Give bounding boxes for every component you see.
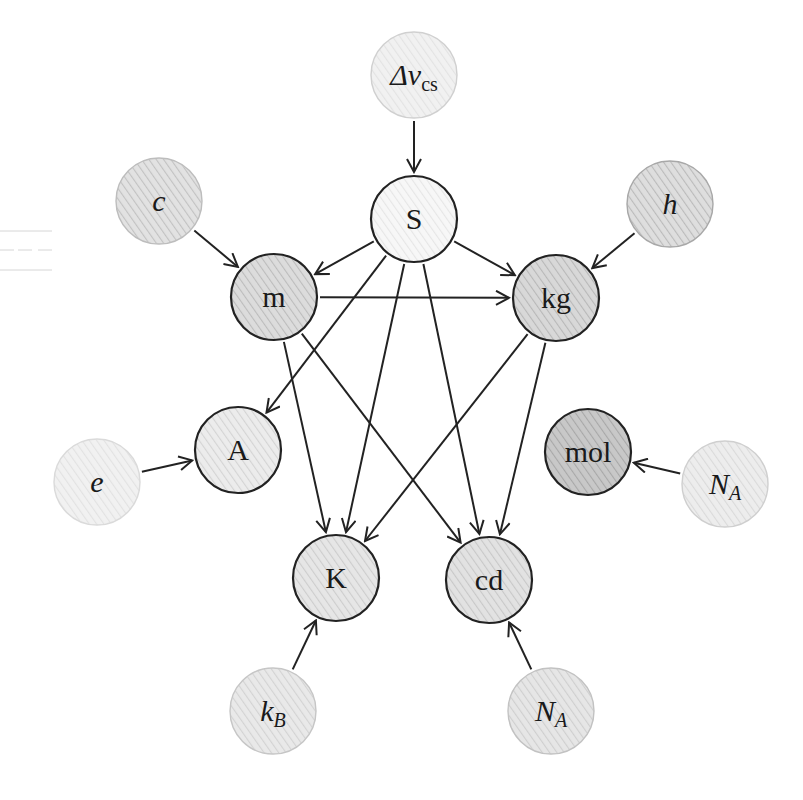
node-label: A bbox=[227, 433, 249, 466]
node-NA_right: NA bbox=[682, 441, 768, 527]
edge-h-to-kg bbox=[592, 233, 634, 268]
dependency-diagram: ΔνcsSchmkgAmoleNAKcdkBNA bbox=[0, 0, 803, 800]
edge-m-to-K bbox=[284, 342, 326, 532]
node-label: kg bbox=[541, 281, 571, 314]
edge-c-to-m bbox=[194, 231, 238, 267]
node-h: h bbox=[627, 161, 713, 247]
node-kB: kB bbox=[230, 668, 316, 754]
node-label: mol bbox=[565, 435, 612, 468]
edge-NA_right-to-mol bbox=[634, 463, 680, 474]
edge-kB-to-K bbox=[293, 621, 316, 670]
node-cd: cd bbox=[446, 537, 532, 623]
node-K: K bbox=[293, 535, 379, 621]
node-label: e bbox=[90, 465, 103, 498]
node-mol: mol bbox=[545, 409, 631, 495]
edge-m-to-kg bbox=[320, 297, 509, 298]
node-label: K bbox=[325, 561, 347, 594]
node-label: S bbox=[406, 202, 423, 235]
node-label: h bbox=[663, 187, 678, 220]
node-c: c bbox=[116, 158, 202, 244]
edge-kg-to-K bbox=[365, 334, 528, 541]
node-S: S bbox=[371, 176, 457, 262]
nodes-layer: ΔνcsSchmkgAmoleNAKcdkBNA bbox=[54, 32, 768, 754]
node-e: e bbox=[54, 439, 140, 525]
node-m: m bbox=[231, 254, 317, 340]
edge-S-to-m bbox=[315, 241, 374, 274]
node-kg: kg bbox=[513, 255, 599, 341]
edge-m-to-cd bbox=[302, 334, 461, 543]
node-label: c bbox=[152, 184, 165, 217]
node-label: cd bbox=[475, 563, 503, 596]
node-dvcs: Δνcs bbox=[371, 32, 457, 118]
edge-kg-to-cd bbox=[500, 343, 546, 535]
node-NA_bottom: NA bbox=[508, 668, 594, 754]
edge-NA_bottom-to-cd bbox=[509, 623, 531, 670]
node-label: m bbox=[262, 280, 285, 313]
edge-S-to-K bbox=[346, 264, 404, 532]
edge-S-to-kg bbox=[454, 241, 515, 275]
edge-S-to-cd bbox=[423, 264, 479, 534]
node-A: A bbox=[195, 407, 281, 493]
faint-artifact-lines bbox=[0, 231, 52, 270]
edge-e-to-A bbox=[142, 460, 192, 471]
